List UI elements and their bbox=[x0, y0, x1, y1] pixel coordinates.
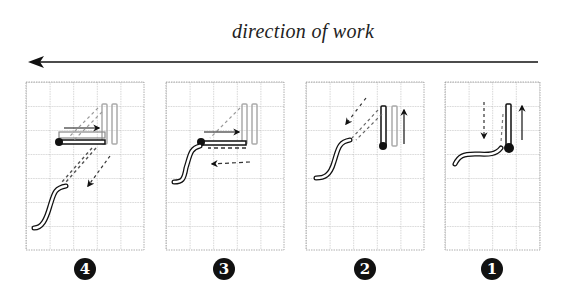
step-1-badge: 1 bbox=[481, 258, 503, 280]
step-4-badge: 4 bbox=[74, 258, 96, 280]
step-2-badge: 2 bbox=[354, 258, 376, 280]
panel-step-3 bbox=[166, 82, 284, 250]
panel-step-4 bbox=[26, 82, 144, 250]
direction-arrow bbox=[28, 56, 538, 68]
panel-step-2 bbox=[306, 82, 424, 250]
step-3-badge: 3 bbox=[213, 258, 235, 280]
panel-step-1 bbox=[445, 82, 540, 250]
